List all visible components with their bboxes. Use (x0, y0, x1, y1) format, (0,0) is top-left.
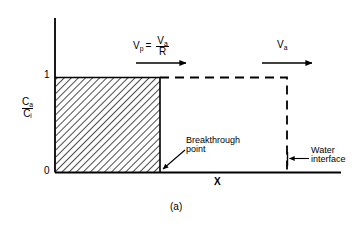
figure-caption: (a) (170, 202, 182, 213)
vp-symbol: Vp (133, 41, 143, 52)
breakthrough-leader-arrow (163, 150, 185, 169)
contaminant-plume-hatched-area (56, 78, 160, 172)
breakthrough-line-2: point (186, 145, 240, 154)
figure-drawing-canvas (0, 0, 360, 235)
va-over-r-fraction: Va R (156, 36, 168, 57)
fraction-denominator: R (159, 47, 166, 57)
breakthrough-point-annotation: Breakthrough point (186, 136, 240, 155)
water-interface-line-2: interface (311, 155, 346, 164)
water-front-dashed-line (160, 78, 287, 173)
x-axis-label: X (214, 177, 221, 188)
water-velocity-label: Va (277, 40, 287, 51)
y-axis-tick-label-0: 0 (44, 166, 50, 177)
plume-velocity-equation-label: Vp = Va R (133, 36, 169, 57)
y-axis-label: Ca Ci (22, 97, 33, 119)
equals-sign: = (145, 41, 151, 52)
water-interface-annotation: Water interface (311, 146, 346, 165)
figure-container: Ca Ci 1 0 X Vp = Va R Va Breakthrough po… (0, 0, 360, 235)
y-axis-tick-label-1: 1 (44, 70, 50, 81)
y-axis-label-denominator: Ci (22, 109, 33, 120)
